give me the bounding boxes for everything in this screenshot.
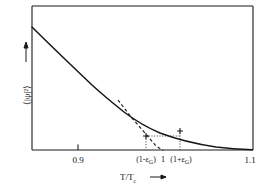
xtick-label-1-minus-eg: (1-εG) — [136, 155, 156, 165]
xtick-label-1-minus-eg-tail: ) — [153, 155, 156, 164]
chart-svg: 0.9 (1-εG) 1 (1+εG) 1.1 T/Tc ⟨|ψ|²⟩ — [0, 0, 269, 187]
figure-container: 0.9 (1-εG) 1 (1+εG) 1.1 T/Tc ⟨|ψ|²⟩ — [0, 0, 269, 187]
xtick-label-1-1: 1.1 — [244, 155, 255, 165]
chart-background — [0, 0, 269, 187]
y-axis-label: ⟨|ψ|²⟩ — [22, 85, 32, 105]
xtick-label-0-9: 0.9 — [72, 155, 84, 165]
xtick-label-1-plus-eg-tail: ) — [189, 155, 192, 164]
xtick-label-1-minus-eg-main: (1-ε — [136, 155, 149, 164]
x-axis-label-sub: c — [134, 178, 137, 184]
x-axis-label-main: T/T — [120, 172, 134, 182]
xtick-label-1-plus-eg-main: (1+ε — [170, 155, 185, 164]
xtick-label-1-plus-eg: (1+εG) — [170, 155, 192, 165]
xtick-label-1: 1 — [161, 154, 166, 164]
